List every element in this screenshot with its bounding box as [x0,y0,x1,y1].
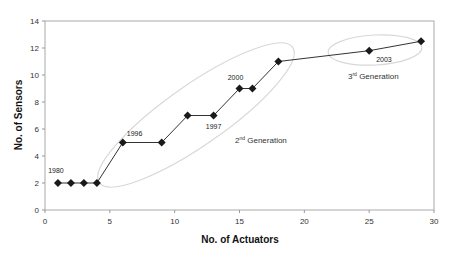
y-tick-label: 2 [35,179,40,188]
year-annotation: 2003 [376,56,392,63]
y-axis-ticks: 02468101214 [30,17,45,215]
y-tick-label: 10 [30,71,39,80]
x-tick-label: 25 [365,217,374,226]
year-annotation: 2000 [228,74,244,81]
year-annotation: 1980 [48,167,64,174]
chart: 02468101214 051015202530 198019961997200… [0,0,455,257]
x-tick-label: 5 [108,217,113,226]
x-tick-label: 30 [430,217,439,226]
y-tick-label: 14 [30,17,39,26]
x-tick-label: 10 [170,217,179,226]
y-tick-label: 8 [35,98,40,107]
x-tick-label: 20 [300,217,309,226]
x-tick-label: 0 [43,217,48,226]
year-annotation: 1997 [206,123,222,130]
x-tick-label: 15 [235,217,244,226]
y-tick-label: 6 [35,125,40,134]
y-tick-label: 4 [35,152,40,161]
x-axis-ticks: 051015202530 [43,210,439,226]
y-axis-title: No. of Sensors [13,79,24,150]
year-annotation: 1996 [127,130,143,137]
y-tick-label: 12 [30,44,39,53]
x-axis-title: No. of Actuators [201,234,279,245]
y-tick-label: 0 [35,206,40,215]
